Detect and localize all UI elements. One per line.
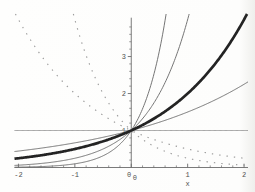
origin-zero-label-2: 0 [133, 174, 137, 182]
exponential-family-plot: -2-11200123x [0, 0, 255, 192]
scanned-figure-page: -2-11200123x [0, 0, 255, 192]
x-tick-label: -1 [71, 171, 79, 179]
y-ticks [128, 27, 132, 160]
curve-y-1-2-x [15, 14, 248, 159]
y-tick-label: 2 [122, 90, 126, 98]
x-tick-label: 1 [186, 171, 190, 179]
x-axis-label: x [186, 180, 190, 188]
x-tick-label: 2 [242, 171, 246, 179]
origin-zero-label: 0 [127, 171, 131, 179]
y-tick-label: 3 [122, 53, 126, 61]
x-tick-label: -2 [14, 171, 22, 179]
